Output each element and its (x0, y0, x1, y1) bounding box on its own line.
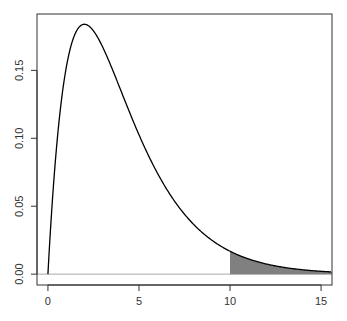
density-curve (48, 24, 331, 274)
x-axis: 051015 (45, 285, 327, 307)
x-tick-label: 5 (136, 295, 142, 307)
y-tick-label: 0.10 (13, 128, 25, 149)
chi-square-density-chart: 051015 0.000.050.100.15 (0, 0, 347, 321)
x-tick-label: 10 (224, 295, 236, 307)
y-axis: 0.000.050.100.15 (13, 60, 37, 285)
plot-frame (37, 14, 332, 285)
plot-area (37, 14, 332, 285)
x-tick-label: 15 (315, 295, 327, 307)
y-tick-label: 0.00 (13, 263, 25, 284)
y-tick-label: 0.05 (13, 196, 25, 217)
x-tick-label: 0 (45, 295, 51, 307)
y-tick-label: 0.15 (13, 60, 25, 81)
